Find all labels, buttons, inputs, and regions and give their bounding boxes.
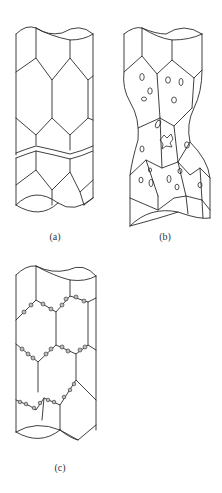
panel-label-b: (b)	[150, 231, 180, 242]
panel-a-specimen	[16, 27, 93, 212]
panel-label-a: (a)	[40, 231, 70, 242]
panel-c-specimen	[16, 266, 96, 440]
panel-label-c: (c)	[45, 462, 75, 473]
panel-b-specimen	[124, 28, 210, 226]
boundary-particles	[18, 295, 87, 410]
figure-canvas	[0, 0, 222, 493]
